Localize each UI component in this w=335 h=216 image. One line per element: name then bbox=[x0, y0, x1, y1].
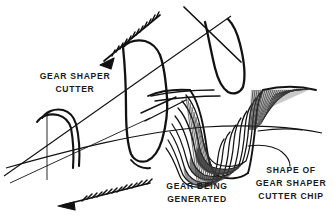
gear-label-line2: GENERATED bbox=[167, 194, 227, 204]
cutter-label-line2: CUTTER bbox=[55, 84, 94, 94]
gear-label-line1: GEAR BEING bbox=[166, 181, 227, 191]
chip-label-line3: CUTTER CHIP bbox=[258, 191, 323, 201]
diagram-canvas: GEAR SHAPER CUTTER GEAR BEING GENERATED … bbox=[0, 0, 335, 216]
gear-shaper-diagram: GEAR SHAPER CUTTER GEAR BEING GENERATED … bbox=[0, 0, 335, 216]
chip-label-line1: SHAPE OF bbox=[266, 165, 316, 175]
cutter-label-line1: GEAR SHAPER bbox=[40, 71, 111, 81]
chip-label-line2: GEAR SHAPER bbox=[256, 178, 327, 188]
